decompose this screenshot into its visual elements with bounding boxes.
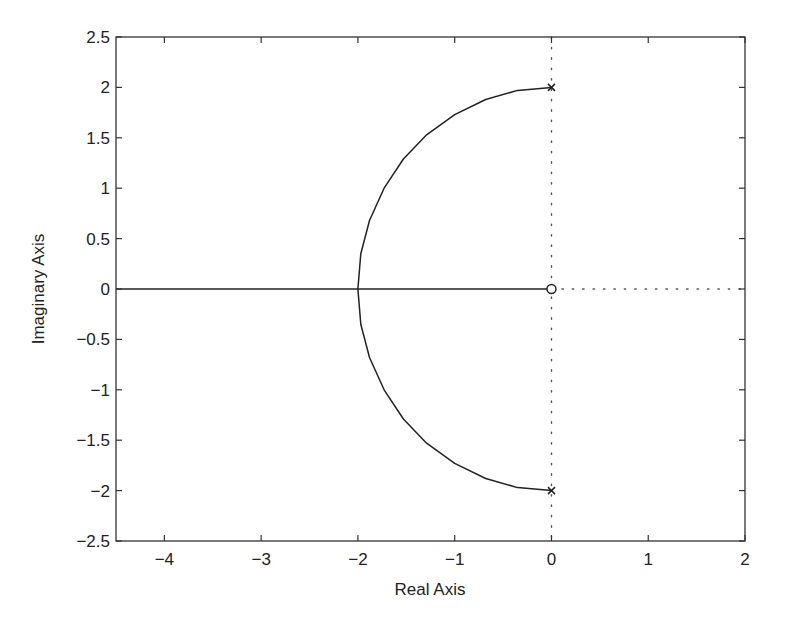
y-tick-label: 2	[101, 78, 110, 97]
zero-circle-icon	[547, 285, 556, 294]
x-tick-label: −2	[348, 550, 367, 569]
y-tick-label: −0.5	[76, 330, 110, 349]
y-tick-label: 0	[101, 280, 110, 299]
x-tick-label: −3	[251, 550, 270, 569]
x-tick-label: −1	[445, 550, 464, 569]
y-axis-label: Imaginary Axis	[29, 234, 48, 345]
root-locus-plot: −4−3−2−10122.521.510.50−0.5−1−1.5−2−2.5 …	[0, 0, 786, 621]
y-tick-label: 2.5	[86, 28, 110, 47]
axis-ticks: −4−3−2−10122.521.510.50−0.5−1−1.5−2−2.5	[76, 28, 749, 569]
locus-branches	[116, 87, 552, 490]
y-tick-label: 0.5	[86, 230, 110, 249]
x-tick-label: 2	[740, 550, 749, 569]
reference-lines	[552, 37, 746, 541]
x-axis-label: Real Axis	[395, 580, 466, 599]
x-tick-label: 1	[643, 550, 652, 569]
y-tick-label: −2	[91, 482, 110, 501]
y-tick-label: 1.5	[86, 129, 110, 148]
y-tick-label: −1	[91, 381, 110, 400]
y-tick-label: 1	[101, 179, 110, 198]
y-tick-label: −1.5	[76, 431, 110, 450]
x-tick-label: −4	[155, 550, 174, 569]
x-tick-label: 0	[547, 550, 556, 569]
y-tick-label: −2.5	[76, 532, 110, 551]
